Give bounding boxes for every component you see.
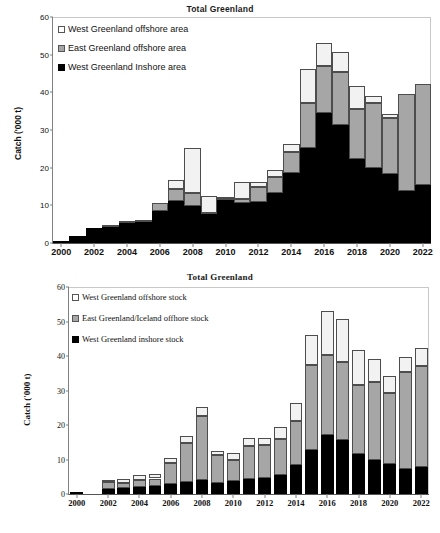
bar-segment: [316, 43, 332, 65]
bar-segment: [267, 170, 283, 178]
x-tick-mark: [61, 243, 62, 247]
y-tick-mark: [66, 459, 69, 460]
bar-2019: [368, 359, 381, 494]
bar-segment: [217, 197, 233, 199]
bar-2011: [243, 438, 256, 494]
bar-2004: [133, 475, 146, 494]
bar-2020: [383, 376, 396, 494]
bar-2014: [283, 144, 299, 243]
bar-segment: [117, 488, 130, 494]
bar-segment: [164, 463, 177, 484]
bar-segment: [398, 191, 414, 243]
bar-segment: [415, 348, 428, 366]
bar-segment: [332, 52, 348, 73]
bar-2014: [290, 403, 303, 494]
bar-2021: [398, 94, 414, 243]
bar-2020: [382, 114, 398, 243]
x-tick-mark: [324, 243, 325, 247]
bar-segment: [227, 453, 240, 460]
bar-segment: [415, 185, 431, 243]
bar-segment: [365, 168, 381, 243]
bar-2016: [321, 311, 334, 494]
bar-2013: [274, 427, 287, 494]
bar-2022: [415, 84, 431, 243]
top-chart-figure: Total Greenland Catch ('000 t) 010203040…: [0, 0, 440, 266]
x-tick-label: 2006: [150, 247, 170, 257]
y-tick-mark: [50, 54, 53, 55]
bar-segment: [133, 475, 146, 481]
bar-segment: [274, 439, 287, 475]
x-tick-mark: [389, 494, 390, 498]
bar-segment: [152, 211, 168, 243]
bar-2021: [399, 357, 412, 494]
bar-segment: [133, 487, 146, 494]
bar-segment: [332, 72, 348, 125]
y-tick-label: 30: [40, 126, 49, 135]
bar-segment: [102, 225, 118, 227]
bar-2017: [336, 319, 349, 494]
y-tick-mark: [50, 205, 53, 206]
bar-segment: [332, 125, 348, 243]
x-tick-mark: [126, 243, 127, 247]
bar-segment: [274, 475, 287, 494]
bar-segment: [102, 482, 115, 489]
x-tick-label: 2022: [413, 498, 430, 508]
x-tick-label: 2010: [216, 247, 236, 257]
bar-segment: [258, 438, 271, 445]
legend-item-label: West Greenland inshore stock: [82, 334, 184, 344]
bar-segment: [234, 199, 250, 204]
bar-segment: [258, 478, 271, 494]
bar-2005: [149, 474, 162, 494]
x-tick-label: 2022: [413, 247, 433, 257]
legend-top: West Greenland offshore areaEast Greenla…: [58, 24, 188, 81]
bar-segment: [180, 436, 193, 443]
x-tick-label: 2002: [84, 247, 104, 257]
bar-segment: [398, 94, 414, 191]
legend-item: East Greenland offshore area: [58, 43, 188, 53]
bar-segment: [196, 407, 209, 417]
bar-segment: [135, 220, 151, 222]
legend-item: West Greenland offshore area: [58, 24, 188, 34]
bar-segment: [290, 465, 303, 494]
bar-segment: [349, 159, 365, 243]
y-tick-label: 60: [40, 13, 49, 22]
y-tick-label: 0: [45, 239, 49, 248]
bar-2010: [217, 198, 233, 243]
y-tick-mark: [50, 92, 53, 93]
x-tick-mark: [192, 243, 193, 247]
bar-2003: [102, 226, 118, 243]
legend-item-label: West Greenland Inshore area: [68, 62, 186, 72]
bar-segment: [164, 484, 177, 494]
legend-item-label: East Greenland/Iceland offhore stock: [82, 313, 209, 323]
x-tick-label: 2000: [51, 247, 71, 257]
x-tick-label: 2008: [194, 498, 211, 508]
y-tick-mark: [66, 321, 69, 322]
bar-segment: [352, 385, 365, 454]
x-tick-label: 2000: [68, 498, 85, 508]
x-tick-mark: [422, 243, 423, 247]
bar-segment: [243, 438, 256, 446]
bar-segment: [168, 189, 184, 201]
bar-2001: [69, 236, 85, 243]
y-tick-label: 60: [57, 283, 65, 292]
bar-segment: [383, 376, 396, 393]
bar-2015: [300, 69, 316, 243]
bar-segment: [250, 202, 266, 243]
chart-title-bottom: Total Greenland: [0, 272, 440, 282]
bar-2012: [258, 438, 271, 494]
bar-segment: [415, 366, 428, 467]
page-title: Total Greenland: [0, 4, 440, 14]
bar-2006: [164, 458, 177, 494]
bar-segment: [211, 455, 224, 483]
bar-segment: [316, 66, 332, 114]
bar-segment: [243, 479, 256, 494]
bar-segment: [234, 203, 250, 243]
bar-segment: [250, 182, 266, 188]
bar-segment: [149, 474, 162, 479]
x-tick-mark: [358, 494, 359, 498]
x-tick-label: 2012: [248, 247, 268, 257]
x-tick-mark: [357, 243, 358, 247]
bar-segment: [382, 174, 398, 243]
bar-segment: [305, 365, 318, 450]
bar-segment: [201, 196, 217, 213]
